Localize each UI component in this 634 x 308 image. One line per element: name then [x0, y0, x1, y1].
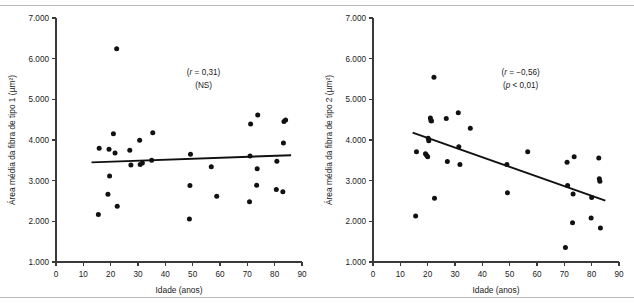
data-point	[127, 148, 132, 153]
data-point	[596, 155, 601, 160]
x-tick-label: 30	[133, 270, 143, 279]
x-tick-label: 40	[161, 270, 171, 279]
data-point	[431, 75, 436, 80]
x-tick-label: 80	[587, 270, 597, 279]
data-point	[209, 164, 214, 169]
data-point	[504, 162, 509, 167]
data-point	[113, 151, 118, 156]
data-point	[274, 159, 279, 164]
data-point	[432, 196, 437, 201]
figure-root: 1.0002.0003.0004.0005.0006.0007.00001020…	[0, 0, 634, 308]
scatter-panel-type2: 1.0002.0003.0004.0005.0006.0007.00001020…	[317, 7, 634, 297]
x-tick-label: 90	[614, 270, 624, 279]
x-tick-label: 70	[560, 270, 570, 279]
data-point	[105, 192, 110, 197]
y-tick-label: 6.000	[29, 55, 50, 64]
data-point	[457, 162, 462, 167]
y-tick-label: 7.000	[29, 14, 50, 23]
scatter-plot-type1: 1.0002.0003.0004.0005.0006.0007.00001020…	[0, 7, 317, 297]
y-tick-label: 3.000	[29, 177, 50, 186]
data-point	[445, 159, 450, 164]
x-tick-label: 40	[478, 270, 488, 279]
y-tick-label: 6.000	[346, 55, 367, 64]
data-point	[597, 179, 602, 184]
data-point	[429, 118, 434, 123]
stat-annotation: (NS)	[195, 81, 212, 90]
data-point	[525, 149, 530, 154]
data-point	[570, 220, 575, 225]
data-point	[274, 187, 279, 192]
x-tick-label: 0	[54, 270, 59, 279]
x-tick-label: 20	[423, 270, 433, 279]
y-tick-label: 4.000	[29, 136, 50, 145]
y-axis-title: Área média da fibra de tipo 2 (µm²)	[324, 75, 334, 205]
data-point	[187, 216, 192, 221]
x-tick-label: 80	[270, 270, 280, 279]
x-tick-label: 70	[243, 270, 253, 279]
data-point	[187, 183, 192, 188]
x-tick-label: 90	[297, 270, 307, 279]
data-point	[137, 138, 142, 143]
x-tick-label: 50	[188, 270, 198, 279]
data-point	[114, 46, 119, 51]
data-point	[589, 215, 594, 220]
x-tick-label: 10	[396, 270, 406, 279]
data-point	[598, 226, 603, 231]
scatter-panels: 1.0002.0003.0004.0005.0006.0007.00001020…	[0, 7, 634, 297]
data-point	[107, 173, 112, 178]
data-point	[426, 138, 431, 143]
stat-annotation: (r = −0,56)	[501, 68, 540, 77]
figure-top-rule	[0, 5, 634, 6]
y-tick-label: 3.000	[346, 177, 367, 186]
data-point	[248, 154, 253, 159]
data-point	[96, 212, 101, 217]
data-point	[111, 131, 116, 136]
data-point	[505, 190, 510, 195]
data-point	[283, 118, 288, 123]
data-point	[107, 147, 112, 152]
x-axis-title: Idade (anos)	[472, 285, 519, 295]
x-tick-label: 0	[371, 270, 376, 279]
data-point	[97, 146, 102, 151]
data-point	[280, 189, 285, 194]
regression-line	[413, 133, 606, 201]
x-tick-label: 50	[505, 270, 515, 279]
data-point	[281, 141, 286, 146]
data-point	[456, 144, 461, 149]
data-point	[150, 130, 155, 135]
data-point	[468, 126, 473, 131]
scatter-plot-type2: 1.0002.0003.0004.0005.0006.0007.00001020…	[317, 7, 634, 297]
x-tick-label: 10	[79, 270, 89, 279]
data-point	[456, 110, 461, 115]
data-point	[214, 194, 219, 199]
scatter-panel-type1: 1.0002.0003.0004.0005.0006.0007.00001020…	[0, 7, 317, 297]
figure-bottom-rule	[0, 297, 634, 298]
data-point	[563, 245, 568, 250]
y-tick-label: 2.000	[29, 217, 50, 226]
y-tick-label: 2.000	[346, 217, 367, 226]
x-tick-label: 60	[532, 270, 542, 279]
data-point	[571, 191, 576, 196]
y-tick-label: 5.000	[29, 95, 50, 104]
y-tick-label: 4.000	[346, 136, 367, 145]
stat-annotation: (p < 0,01)	[503, 81, 539, 90]
data-point	[254, 183, 259, 188]
x-axis-title: Idade (anos)	[155, 285, 202, 295]
data-point	[565, 183, 570, 188]
y-tick-label: 1.000	[29, 258, 50, 267]
data-point	[188, 152, 193, 157]
data-point	[247, 199, 252, 204]
y-tick-label: 7.000	[346, 14, 367, 23]
data-point	[589, 195, 594, 200]
x-tick-label: 20	[106, 270, 116, 279]
data-point	[248, 121, 253, 126]
data-point	[149, 158, 154, 163]
y-tick-label: 5.000	[346, 95, 367, 104]
x-tick-label: 30	[450, 270, 460, 279]
data-point	[115, 204, 120, 209]
data-point	[255, 112, 260, 117]
x-tick-label: 60	[215, 270, 225, 279]
data-point	[572, 154, 577, 159]
data-point	[255, 166, 260, 171]
data-point	[565, 160, 570, 165]
